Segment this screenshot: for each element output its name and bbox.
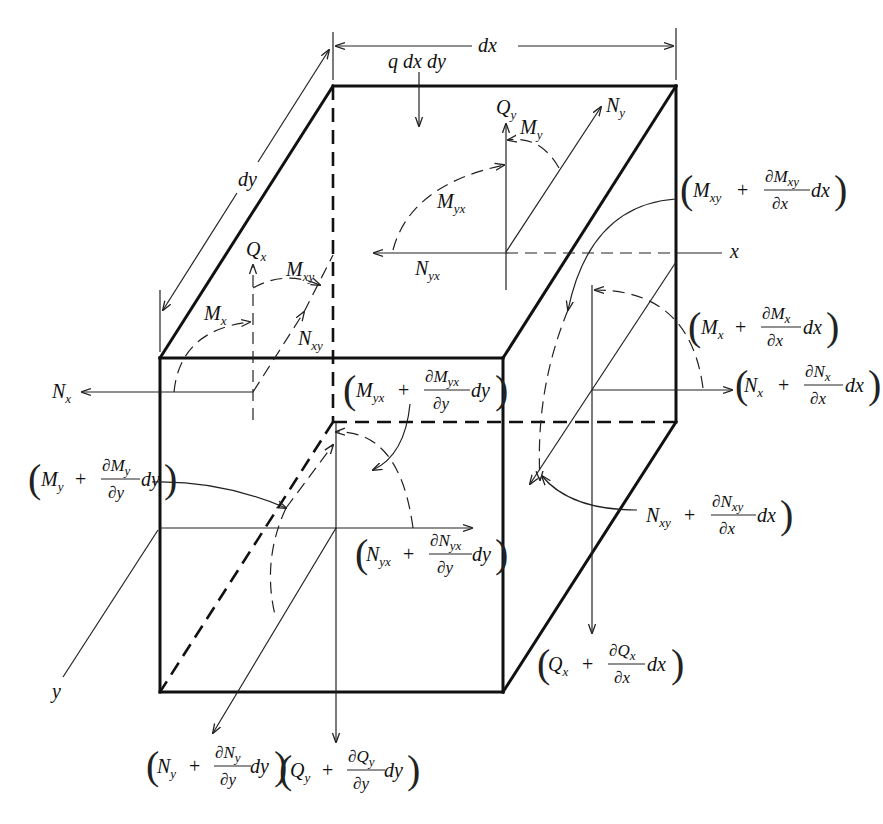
expr-Qy-dy: ( Qy + ∂Qy ∂y dy )	[279, 747, 420, 793]
My-label: My	[519, 116, 543, 142]
svg-text:): )	[671, 641, 684, 686]
svg-text:∂x: ∂x	[614, 668, 630, 687]
dimension-dx: dx	[333, 28, 676, 80]
svg-text:∂Myx: ∂Myx	[425, 367, 459, 389]
svg-text:): )	[780, 492, 793, 537]
expr-Nx-dx: ( Nx + ∂Nx ∂x dx )	[735, 362, 881, 408]
expr-Qx-dx: ( Qx + ∂Qx ∂x dx )	[537, 641, 684, 687]
Qx-label: Qx	[246, 238, 266, 264]
Myx-label: Myx	[436, 190, 465, 216]
y-axis: y	[50, 530, 158, 703]
svg-text:∂Nyx: ∂Nyx	[430, 531, 462, 553]
svg-text:+: +	[75, 468, 86, 490]
svg-text:My: My	[40, 468, 64, 494]
svg-text:Qx: Qx	[548, 653, 568, 679]
svg-text:∂y: ∂y	[437, 558, 453, 577]
svg-text:+: +	[778, 374, 789, 396]
svg-text:+: +	[684, 504, 695, 526]
Mxy-increment-arrow	[568, 199, 676, 310]
dimension-dy: dy	[160, 50, 329, 352]
svg-text:+: +	[322, 759, 333, 781]
svg-text:∂Mx: ∂Mx	[762, 304, 791, 326]
svg-text:): )	[164, 456, 177, 501]
right-face-resultants	[530, 199, 732, 633]
Ny-increment-arrow	[213, 528, 336, 733]
svg-text:+: +	[403, 543, 414, 565]
svg-text:+: +	[189, 755, 200, 777]
svg-text:Nxy: Nxy	[645, 504, 671, 530]
svg-text:): )	[495, 367, 508, 412]
svg-text:∂x: ∂x	[719, 519, 735, 538]
svg-text:dx: dx	[845, 374, 864, 396]
expr-Nyx-dy: ( Nyx + ∂Nyx ∂y dy )	[355, 531, 508, 577]
expr-Ny-dy: ( Ny + ∂Ny ∂y dy )	[146, 743, 287, 789]
svg-text:∂Nx: ∂Nx	[805, 362, 831, 384]
My-moment-arc	[508, 139, 559, 168]
Mxy-label: Mxy	[285, 258, 314, 284]
Mx-increment-arc	[595, 290, 703, 388]
expr-Mx-dx: ( Mx + ∂Mx ∂x dx )	[688, 304, 839, 350]
svg-text:Qy: Qy	[290, 759, 310, 785]
Qy-label: Qy	[496, 96, 516, 122]
svg-text:∂Mxy: ∂Mxy	[765, 167, 799, 189]
svg-text:Nyx: Nyx	[365, 543, 391, 569]
svg-text:∂My: ∂My	[102, 456, 131, 478]
svg-text:(: (	[28, 456, 41, 501]
svg-text:(: (	[680, 167, 693, 212]
svg-text:dy: dy	[384, 759, 403, 782]
Ny-label: Ny	[605, 94, 625, 120]
svg-text:(: (	[343, 367, 356, 412]
svg-text:∂x: ∂x	[767, 331, 783, 350]
svg-text:dx: dx	[647, 653, 666, 675]
svg-text:+: +	[735, 316, 746, 338]
svg-text:): )	[407, 747, 420, 792]
svg-text:∂y: ∂y	[353, 774, 369, 793]
expr-Mxy-dx: ( Mxy + ∂Mxy ∂x dx )	[680, 167, 847, 213]
svg-text:+: +	[582, 653, 593, 675]
y-axis-label: y	[50, 680, 61, 703]
plate-element-diagram: dx dy q dx dy Qy My Ny Myx Nyx x Qx Mxy …	[0, 0, 883, 824]
Nxy-increment-arrow	[530, 262, 676, 484]
svg-text:∂y: ∂y	[220, 770, 236, 789]
svg-text:): )	[826, 304, 839, 349]
svg-text:∂y: ∂y	[433, 394, 449, 413]
svg-text:dy: dy	[141, 468, 160, 491]
svg-text:dy: dy	[471, 379, 490, 402]
x-axis-label: x	[729, 240, 739, 262]
expr-Myx-dy: ( Myx + ∂Myx ∂y dy )	[343, 367, 508, 413]
svg-text:dy: dy	[250, 755, 269, 778]
distributed-load: q dx dy	[388, 50, 446, 126]
svg-text:Mxy: Mxy	[692, 179, 721, 205]
svg-text:dx: dx	[757, 504, 776, 526]
svg-text:∂Qy: ∂Qy	[348, 747, 375, 769]
hidden-left-bottom-edge	[160, 422, 333, 692]
expr-My-dy: ( My + ∂My ∂y dy )	[28, 456, 177, 502]
right-bottom-edge	[503, 422, 676, 692]
svg-text:∂Qx: ∂Qx	[609, 641, 636, 663]
top-left-edge	[160, 86, 333, 358]
expr-Nxy-dx: Nxy + ∂Nxy ∂x dx )	[645, 492, 793, 538]
svg-text:dx: dx	[811, 179, 830, 201]
svg-text:Myx: Myx	[355, 379, 384, 405]
svg-text:∂Ny: ∂Ny	[215, 743, 241, 765]
svg-text:∂Nxy: ∂Nxy	[712, 492, 744, 514]
svg-text:): )	[868, 362, 881, 407]
svg-text:∂x: ∂x	[810, 389, 826, 408]
Nxy-arrow	[253, 312, 304, 392]
Nyx-label: Nyx	[414, 257, 440, 283]
load-label: q dx dy	[388, 50, 446, 73]
svg-text:(: (	[688, 304, 701, 349]
Mx-label: Mx	[203, 302, 227, 328]
svg-text:): )	[495, 531, 508, 576]
svg-text:dx: dx	[803, 316, 822, 338]
svg-text:Mx: Mx	[700, 316, 724, 342]
svg-text:): )	[834, 167, 847, 212]
Nx-label: Nx	[51, 380, 71, 406]
svg-text:∂x: ∂x	[772, 194, 788, 213]
left-face-resultants: Qx Mxy Mx Nxy Nx	[51, 238, 333, 420]
dx-label: dx	[478, 34, 497, 56]
svg-text:+: +	[398, 379, 409, 401]
Myx-increment-arc	[336, 432, 413, 528]
svg-text:+: +	[737, 179, 748, 201]
dy-label: dy	[238, 168, 257, 191]
